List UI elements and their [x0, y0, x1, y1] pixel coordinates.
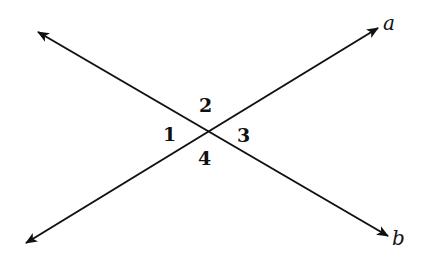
line-b-label: b: [392, 226, 405, 250]
angle-2-label: 2: [199, 94, 212, 116]
line-a-label: a: [383, 11, 395, 35]
angle-diagram: a b 1 2 3 4: [0, 0, 435, 273]
line-b: [38, 32, 388, 236]
angle-3-label: 3: [237, 124, 250, 146]
angle-1-label: 1: [163, 123, 176, 145]
angle-4-label: 4: [198, 147, 211, 169]
line-a: [26, 28, 378, 243]
